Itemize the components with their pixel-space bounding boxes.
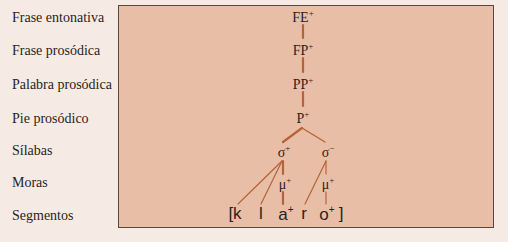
- segment-k: [k: [228, 204, 241, 224]
- branch-p-sigma2: [302, 128, 325, 142]
- segment-a-sup: +: [288, 204, 294, 215]
- segment-r: r: [301, 204, 307, 224]
- node-pp: PP+: [293, 75, 314, 93]
- node-mu-2: μ+: [322, 175, 335, 193]
- segment-r-text: r: [301, 204, 307, 223]
- node-p: P+: [297, 109, 310, 127]
- node-sigma2-sup: −: [329, 143, 334, 153]
- node-pp-label: PP: [293, 77, 309, 92]
- node-pp-sup: +: [308, 75, 313, 85]
- node-mu-1: μ+: [279, 175, 292, 193]
- segment-l-text: l: [259, 204, 263, 223]
- segment-a: a+: [278, 204, 293, 225]
- node-fp: FP+: [293, 41, 314, 59]
- node-mu1-sup: +: [286, 175, 291, 185]
- node-mu2-sup: +: [329, 175, 334, 185]
- node-p-label: P: [297, 111, 305, 126]
- node-sigma1-sup: +: [285, 143, 290, 153]
- node-fe-label: FE: [292, 10, 308, 25]
- node-fp-label: FP: [293, 43, 309, 58]
- node-sigma-unstressed: σ−: [322, 143, 335, 161]
- branch-sigma1-k: [238, 161, 282, 204]
- node-sigma1-label: σ: [278, 145, 286, 160]
- node-fp-sup: +: [308, 41, 313, 51]
- node-sigma-stressed: σ+: [278, 143, 291, 161]
- segment-o: o+: [319, 204, 334, 225]
- tree-branches: [0, 0, 508, 242]
- node-sigma2-label: σ: [322, 145, 330, 160]
- segment-bracket-text: ]: [339, 204, 344, 223]
- segment-close-bracket: ]: [339, 204, 344, 224]
- node-p-sup: +: [304, 109, 309, 119]
- node-mu2-label: μ: [322, 177, 330, 192]
- node-fe-sup: +: [309, 8, 314, 18]
- segment-l: l: [259, 204, 263, 224]
- node-mu1-label: μ: [279, 177, 287, 192]
- branch-p-sigma1: [283, 128, 302, 142]
- node-fe: FE+: [292, 8, 313, 26]
- segment-k-text: [k: [228, 204, 241, 223]
- segment-o-sup: +: [329, 204, 335, 215]
